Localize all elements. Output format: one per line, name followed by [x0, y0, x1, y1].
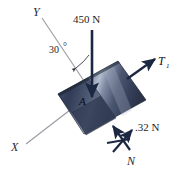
tension-subscript: 1 — [166, 62, 170, 70]
x-axis-label: X — [10, 140, 19, 154]
free-body-diagram-figure: Y X 450 N T 1 .32 N N 30 ° A — [0, 0, 175, 173]
normal-force-label: N — [126, 154, 136, 168]
angle-degree-symbol: ° — [63, 41, 67, 52]
tension-shaft — [127, 59, 155, 79]
applied-load-label: 450 N — [73, 13, 100, 25]
normal-force-crossbar — [107, 139, 130, 143]
tension-label: T — [158, 54, 166, 68]
tension-vector — [127, 59, 155, 79]
angle-value-label: 30 — [49, 44, 59, 55]
angle-arc — [76, 55, 89, 68]
angle-indicator — [76, 55, 89, 68]
normal-force-shaft — [113, 126, 130, 150]
inclined-plate — [58, 61, 146, 135]
y-axis-label: Y — [33, 5, 41, 19]
point-a-label: A — [78, 95, 86, 107]
secondary-force-label: .32 N — [135, 121, 160, 133]
diagram-canvas: Y X 450 N T 1 .32 N N 30 ° A — [0, 0, 175, 173]
